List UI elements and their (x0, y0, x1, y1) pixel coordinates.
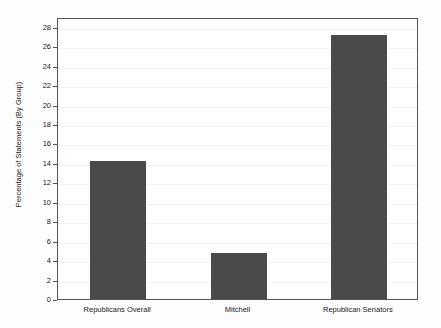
y-axis-tick-mark (53, 164, 57, 165)
plot-area (57, 18, 418, 300)
bar (90, 161, 146, 299)
y-axis-tick-mark (53, 281, 57, 282)
y-axis-tick-mark (53, 86, 57, 87)
y-axis-tick-mark (53, 47, 57, 48)
y-axis-tick-mark (53, 67, 57, 68)
y-axis-tick-label: 2 (7, 277, 51, 285)
y-axis-tick-label: 0 (7, 296, 51, 304)
y-axis-tick-label: 4 (7, 257, 51, 265)
y-axis-tick-mark (53, 28, 57, 29)
y-axis-tick-mark (53, 222, 57, 223)
chart-figure: 0246810121416182022242628 Percentage of … (0, 0, 441, 328)
gridline (58, 29, 417, 30)
y-axis-tick-mark (53, 125, 57, 126)
y-axis-tick-mark (53, 183, 57, 184)
bar (211, 253, 267, 299)
y-axis-tick-mark (53, 144, 57, 145)
y-axis-tick-mark (53, 106, 57, 107)
bar (331, 35, 387, 299)
y-axis-title: Percentage of Statements (By Group) (14, 45, 23, 245)
x-axis-tick-label: Republican Senators (278, 305, 438, 314)
y-axis-tick-label: 28 (7, 24, 51, 32)
y-axis-tick-label-group: 0246810121416182022242628 (0, 0, 51, 328)
y-axis-tick-mark (53, 242, 57, 243)
y-axis-tick-mark (53, 203, 57, 204)
y-axis-tick-mark (53, 300, 57, 301)
y-axis-tick-mark (53, 261, 57, 262)
